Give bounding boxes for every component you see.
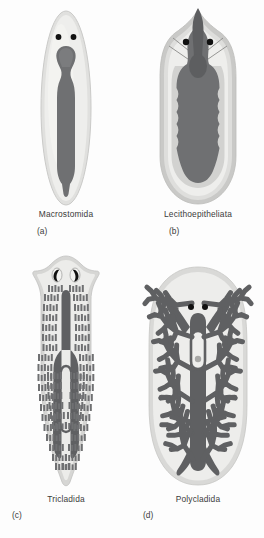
panel-letter-c: (c)	[12, 510, 22, 520]
eyespot-left	[188, 304, 194, 310]
tricladida-svg	[24, 254, 108, 490]
taxon-label-b: Lecithoepitheliata	[132, 209, 264, 219]
figure-panel-grid: Macrostomida (a) Lecithoepitheliata (b)	[0, 0, 264, 538]
mouth-opening	[195, 356, 201, 362]
lecithoepitheliata-svg	[153, 6, 243, 208]
pharynx	[59, 48, 73, 67]
figure-panel-c: Tricladida (c)	[0, 240, 132, 538]
eyespot-right	[71, 34, 77, 40]
polycladida-svg	[146, 265, 250, 487]
pharynx-bulb	[189, 54, 207, 78]
eyespot-left	[183, 39, 189, 45]
macrostomida-svg	[28, 8, 104, 208]
panel-letter-d: (d)	[143, 510, 153, 520]
eyespot-left	[56, 34, 62, 40]
taxon-label-c: Tricladida	[0, 494, 132, 504]
taxon-label-d: Polycladida	[132, 494, 264, 504]
figure-panel-d: Polycladida (d)	[132, 240, 264, 538]
organism-illustration-macrostomida	[0, 8, 132, 208]
taxon-label-a: Macrostomida	[0, 209, 132, 219]
figure-panel-a: Macrostomida (a)	[0, 0, 132, 240]
panel-letter-b: (b)	[169, 226, 179, 236]
figure-panel-b: Lecithoepitheliata (b)	[132, 0, 264, 240]
eyespot-right	[202, 304, 208, 310]
organism-illustration-tricladida	[0, 252, 132, 492]
gut-anterior-branch	[62, 290, 71, 350]
organism-illustration-lecithoepitheliata	[132, 6, 264, 208]
organism-illustration-polycladida	[132, 262, 264, 490]
panel-letter-a: (a)	[37, 226, 47, 236]
eyespot-right	[207, 39, 213, 45]
